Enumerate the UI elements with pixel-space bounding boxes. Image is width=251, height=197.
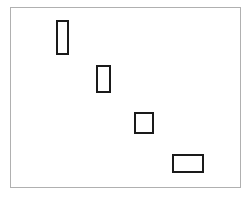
figure-canvas	[0, 0, 251, 197]
rectangle-3	[134, 112, 154, 134]
rectangle-1	[56, 20, 69, 55]
rectangle-2	[96, 65, 111, 93]
rectangle-4	[172, 154, 204, 173]
figure-border	[10, 7, 241, 188]
